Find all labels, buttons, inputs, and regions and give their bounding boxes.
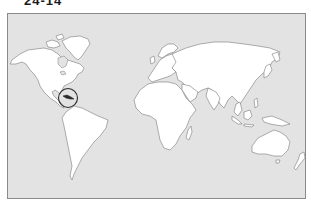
java [244, 124, 254, 127]
world-map [0, 0, 311, 206]
tasmania [276, 160, 280, 163]
greenland [62, 36, 90, 60]
south-america [62, 106, 108, 180]
australia [252, 130, 290, 156]
southeast-asia [234, 102, 242, 116]
arctic-islands [46, 34, 64, 48]
borneo [244, 110, 252, 120]
new-zealand [294, 152, 305, 170]
british-isles [150, 56, 155, 64]
philippines [254, 98, 258, 108]
sumatra [232, 116, 242, 124]
madagascar [186, 126, 192, 140]
cuba-highlight [63, 95, 74, 99]
new-guinea [262, 116, 290, 126]
